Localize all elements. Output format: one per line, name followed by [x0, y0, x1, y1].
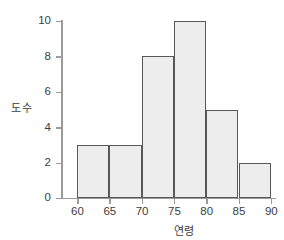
x-tick-mark	[142, 198, 144, 204]
x-tick-label: 60	[64, 205, 92, 217]
x-tick-label: 70	[128, 205, 156, 217]
x-tick-mark	[174, 198, 176, 204]
x-tick-mark	[109, 198, 111, 204]
x-axis-title-text: 연령	[174, 225, 195, 237]
x-tick-mark	[239, 198, 241, 204]
x-tick-label: 90	[257, 205, 284, 217]
y-tick-label: 10	[29, 15, 51, 26]
histogram-bar	[239, 163, 271, 198]
x-tick-label: 75	[160, 205, 188, 217]
plot-area	[62, 21, 270, 198]
histogram-bar	[77, 145, 109, 198]
histogram-bar	[109, 145, 141, 198]
y-axis-title: 도수	[11, 99, 32, 115]
histogram-chart: 10 8 6 4 2 0 60 65 70 75 80 85 90 도수 연령	[0, 0, 284, 240]
x-tick-mark	[206, 198, 208, 204]
y-tick-label: 0	[29, 192, 51, 203]
histogram-bar	[142, 56, 174, 198]
x-tick-label: 85	[225, 205, 253, 217]
y-tick-label: 2	[29, 157, 51, 168]
y-tick-label: 6	[29, 86, 51, 97]
histogram-bar	[174, 21, 206, 198]
x-tick-mark	[77, 198, 79, 204]
histogram-bar	[206, 110, 238, 199]
x-tick-label: 65	[96, 205, 124, 217]
y-tick-label: 4	[29, 122, 51, 133]
y-tick-label: 8	[29, 51, 51, 62]
x-tick-mark	[271, 198, 273, 204]
x-axis-title: 연령	[0, 222, 284, 238]
x-tick-label: 80	[193, 205, 221, 217]
